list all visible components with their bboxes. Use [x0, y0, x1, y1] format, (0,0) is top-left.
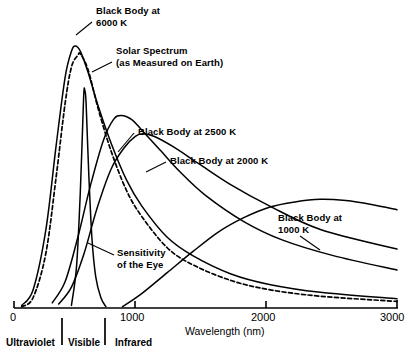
- x-axis-title: Wavelength (nm): [185, 325, 265, 337]
- xtick-label-1000: 1000: [120, 311, 144, 323]
- band-label-visible: Visible: [68, 337, 100, 348]
- leader-line-solar: [92, 62, 112, 72]
- leader-line-eye: [88, 243, 114, 255]
- band-label-ultraviolet: Ultraviolet: [6, 337, 55, 348]
- spectral-curves: [22, 46, 397, 307]
- xtick-label-2000: 2000: [251, 311, 275, 323]
- annotation-blackbody-2500k: Black Body at 2500 K: [138, 126, 236, 138]
- leader-line-bb1000: [300, 236, 320, 250]
- xtick-label-0: 0: [10, 311, 16, 323]
- curve-solar-spectrum-as-measured-on-earth: [22, 53, 397, 307]
- blackbody-spectrum-chart: Black Body at 6000 K Solar Spectrum (as …: [0, 0, 412, 357]
- leader-line-bb6000: [76, 22, 92, 35]
- band-label-infrared: Infrared: [115, 337, 152, 348]
- curve-black-body-at-6000-k: [22, 46, 397, 305]
- annotation-solar-spectrum: Solar Spectrum (as Measured on Earth): [116, 45, 223, 68]
- leader-line-bb2000: [146, 162, 166, 172]
- annotation-blackbody-1000k: Black Body at 1000 K: [278, 212, 342, 235]
- annotation-blackbody-2000k: Black Body at 2000 K: [170, 155, 268, 167]
- curve-black-body-at-2500-k: [52, 115, 397, 302]
- leader-line-bb2500: [118, 133, 134, 152]
- xtick-label-3000: 3000: [380, 311, 404, 323]
- annotation-blackbody-6000k: Black Body at 6000 K: [96, 5, 160, 28]
- annotation-eye-sensitivity: Sensitivity of the Eye: [117, 247, 166, 270]
